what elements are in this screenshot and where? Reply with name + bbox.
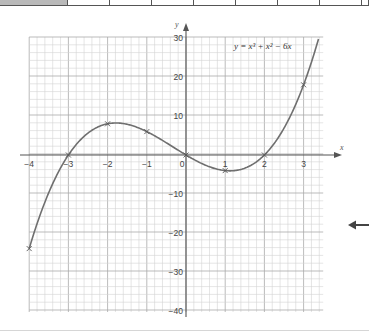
divider — [0, 330, 369, 331]
x-tick-label: 0 — [180, 159, 185, 169]
y-tick-label: −10 — [169, 189, 184, 199]
equation-label: y = x³ + x² − 6x — [233, 41, 292, 51]
left-arrow-icon — [348, 219, 369, 231]
y-tick-label: 10 — [174, 111, 184, 121]
y-axis-arrow-icon — [183, 23, 189, 31]
y-tick-label: 30 — [174, 33, 184, 43]
x-axis-label: x — [339, 143, 344, 152]
cubic-curve — [29, 39, 318, 249]
x-tick-label: 1 — [223, 159, 228, 169]
x-tick-label: −4 — [24, 159, 34, 169]
x-tick-label: −2 — [103, 159, 113, 169]
y-tick-label: −40 — [169, 306, 184, 316]
x-tick-label: 3 — [301, 159, 306, 169]
x-tick-label: −1 — [142, 159, 152, 169]
y-tick-label: −20 — [169, 228, 184, 238]
y-tick-label: 20 — [174, 72, 184, 82]
y-tick-label: −30 — [169, 267, 184, 277]
cubic-graph: xy−4−3−2−10123302010−10−20−30−40y = x³ +… — [0, 0, 369, 333]
y-axis-label: y — [174, 20, 179, 29]
x-tick-label: 2 — [262, 159, 267, 169]
x-axis-arrow-icon — [334, 152, 342, 158]
